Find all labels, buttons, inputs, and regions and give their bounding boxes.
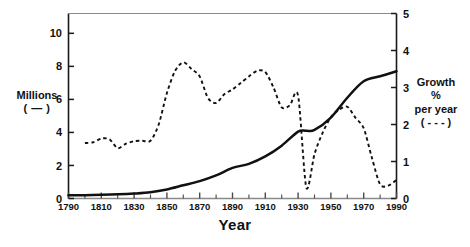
chart-figure: 0246810 012345 1790181018301850187018901… — [0, 0, 470, 247]
x-axis-tick-label: 1890 — [222, 201, 243, 212]
x-axis-tick-label: 1930 — [288, 201, 309, 212]
growth-rate-dashed-line — [85, 62, 397, 188]
y-axis-right-tick-label: 5 — [403, 8, 423, 20]
x-axis-tick-label: 1970 — [353, 201, 374, 212]
y-axis-left-title: Millions ( — ) — [6, 89, 68, 116]
x-axis-title: Year — [0, 216, 470, 234]
x-axis-tick-label: 1910 — [255, 201, 276, 212]
y-axis-right-title-line-1: Growth — [404, 76, 468, 89]
y-axis-right-title-line-3: per year — [404, 103, 468, 116]
x-axis-tick-label: 1830 — [124, 201, 145, 212]
x-axis-tick-label: 1950 — [320, 201, 341, 212]
y-axis-right-tick-label: 1 — [403, 156, 423, 168]
y-axis-left-title-line-1: Millions — [6, 89, 68, 102]
x-axis-tick-label: 1850 — [156, 201, 177, 212]
y-axis-left-title-line-2: ( — ) — [6, 102, 68, 115]
x-axis-tick-label: 1790 — [58, 201, 79, 212]
y-axis-right-title-line-2: % — [404, 89, 468, 102]
x-axis-tick-label: 1990 — [386, 201, 407, 212]
x-axis-tick-label: 1870 — [189, 201, 210, 212]
y-axis-left-tick-label: 4 — [40, 126, 62, 138]
y-axis-right-tick-label: 4 — [403, 45, 423, 57]
y-axis-left-tick-label: 2 — [40, 160, 62, 172]
y-axis-left-tick-label: 8 — [40, 60, 62, 72]
data-series-group — [69, 62, 397, 195]
y-axis-right-title-line-4: ( - - - ) — [404, 116, 468, 129]
x-axis-tick-label: 1810 — [91, 201, 112, 212]
population-solid-line — [69, 71, 397, 195]
y-axis-right-title: Growth % per year ( - - - ) — [404, 76, 468, 130]
y-axis-left-tick-label: 10 — [40, 27, 62, 39]
